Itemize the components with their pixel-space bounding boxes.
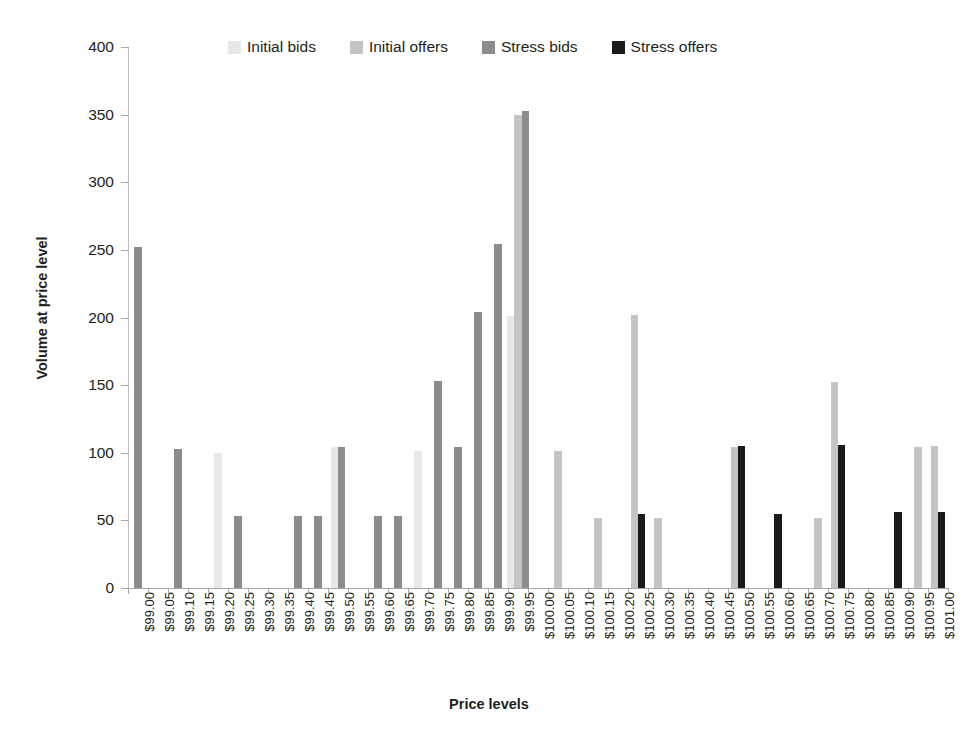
x-axis-tick-label: $100.15 (603, 592, 616, 682)
x-axis-tick-label: $99.20 (223, 592, 236, 682)
x-axis-tick (928, 588, 929, 594)
x-axis-tick-label: $100.05 (563, 592, 576, 682)
x-axis-tick (388, 588, 389, 594)
x-axis-tick-label: $100.25 (643, 592, 656, 682)
x-axis-tick-label: $99.15 (203, 592, 216, 682)
x-axis-tick (368, 588, 369, 594)
x-axis-tick-label: $100.45 (723, 592, 736, 682)
bar (814, 518, 821, 588)
x-axis-tick (148, 588, 149, 594)
x-axis-tick (528, 588, 529, 594)
x-axis-tick-label: $100.30 (663, 592, 676, 682)
bar (631, 315, 638, 588)
x-axis-tick (268, 588, 269, 594)
x-axis-tick (768, 588, 769, 594)
x-axis-tick-label: $99.75 (443, 592, 456, 682)
y-axis-tick-label: 300 (48, 173, 114, 191)
bar (554, 451, 561, 588)
x-axis-tick-label: $100.40 (703, 592, 716, 682)
x-axis-tick (328, 588, 329, 594)
bar (314, 516, 321, 588)
x-axis-tick (948, 588, 949, 594)
x-axis-tick-label: $99.25 (243, 592, 256, 682)
x-axis-tick (568, 588, 569, 594)
x-axis-tick (688, 588, 689, 594)
x-axis-tick-label: $99.65 (403, 592, 416, 682)
x-axis-tick-label: $99.70 (423, 592, 436, 682)
x-axis-tick-label: $99.10 (183, 592, 196, 682)
x-axis-tick (508, 588, 509, 594)
x-axis-tick (648, 588, 649, 594)
x-axis-tick-label: $99.35 (283, 592, 296, 682)
bar (394, 516, 401, 588)
x-axis-tick (208, 588, 209, 594)
bar-chart: Initial bidsInitial offersStress bidsStr… (0, 0, 978, 735)
bar (522, 111, 529, 588)
bar (738, 446, 745, 588)
x-axis-tick (908, 588, 909, 594)
x-axis-tick (128, 588, 129, 594)
x-axis-tick (408, 588, 409, 594)
x-axis-tick (248, 588, 249, 594)
x-axis-tick-label: $99.55 (363, 592, 376, 682)
y-axis-labels: 050100150200250300350400 (46, 47, 114, 588)
x-axis-tick-label: $100.70 (823, 592, 836, 682)
x-axis-tick-label: $99.60 (383, 592, 396, 682)
bar (234, 516, 241, 588)
y-axis-tick (121, 47, 129, 48)
y-axis-tick-label: 400 (48, 38, 114, 56)
x-axis-tick-label: $100.00 (543, 592, 556, 682)
y-axis-tick-label: 150 (48, 376, 114, 394)
x-axis-tick-label: $99.95 (523, 592, 536, 682)
y-axis-tick-label: 250 (48, 241, 114, 259)
bar (894, 512, 901, 588)
y-axis-tick-label: 50 (48, 511, 114, 529)
y-axis-tick-label: 0 (48, 579, 114, 597)
x-axis-tick-label: $99.45 (323, 592, 336, 682)
x-axis-tick (628, 588, 629, 594)
bar (434, 381, 441, 588)
y-axis-tick (121, 250, 129, 251)
bar (938, 512, 945, 588)
x-axis-tick-label: $100.35 (683, 592, 696, 682)
x-axis-tick (348, 588, 349, 594)
bar (374, 516, 381, 588)
x-axis-tick-label: $99.80 (463, 592, 476, 682)
plot-area (128, 47, 948, 588)
x-axis-tick-label: $100.90 (903, 592, 916, 682)
y-axis-tick-label: 100 (48, 444, 114, 462)
x-axis-tick-label: $100.60 (783, 592, 796, 682)
y-axis-tick (121, 385, 129, 386)
y-axis-tick (121, 115, 129, 116)
x-axis-tick (608, 588, 609, 594)
bar (638, 514, 645, 588)
bar (838, 445, 845, 588)
y-axis-tick-label: 350 (48, 106, 114, 124)
x-axis-tick (748, 588, 749, 594)
bar (914, 447, 921, 588)
bar (331, 447, 338, 588)
x-axis-tick (168, 588, 169, 594)
x-axis-tick-label: $99.50 (343, 592, 356, 682)
x-axis-tick-label: $99.05 (163, 592, 176, 682)
x-axis-tick-label: $100.65 (803, 592, 816, 682)
bar (731, 447, 738, 588)
x-axis-tick-label: $100.10 (583, 592, 596, 682)
x-axis-tick-label: $99.40 (303, 592, 316, 682)
x-axis-tick (788, 588, 789, 594)
x-axis-labels: $99.00$99.05$99.10$99.15$99.20$99.25$99.… (128, 592, 949, 692)
x-axis-tick (448, 588, 449, 594)
x-axis-tick-label: $99.30 (263, 592, 276, 682)
x-axis-tick (288, 588, 289, 594)
bar (474, 312, 481, 588)
bar (294, 516, 301, 588)
x-axis-tick (468, 588, 469, 594)
x-axis-tick (808, 588, 809, 594)
x-axis-tick-label: $100.75 (843, 592, 856, 682)
x-axis-tick-label: $101.00 (943, 592, 956, 682)
y-axis-tick (121, 182, 129, 183)
bar (507, 316, 514, 588)
x-axis-line (128, 588, 949, 589)
x-axis-tick (708, 588, 709, 594)
x-axis-tick (868, 588, 869, 594)
